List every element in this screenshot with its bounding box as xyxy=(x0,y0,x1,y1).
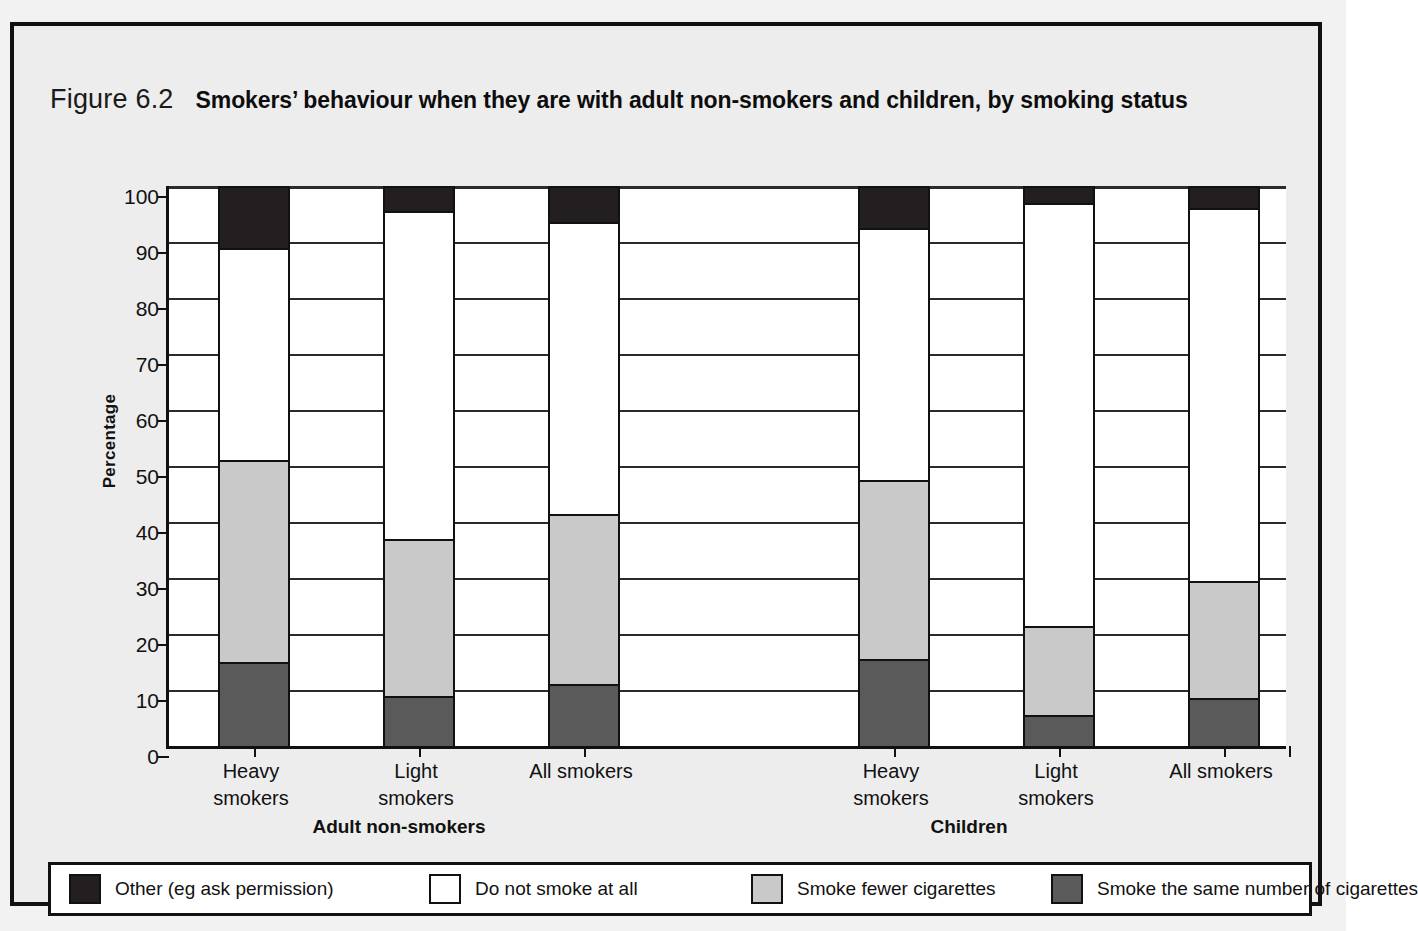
x-axis-tick-mark xyxy=(254,746,256,757)
legend-item[interactable]: Smoke fewer cigarettes xyxy=(751,865,996,913)
bar-segment-do-not-smoke[interactable] xyxy=(1023,203,1095,626)
x-axis-tick-mark xyxy=(1224,746,1226,757)
bar-segment-do-not-smoke[interactable] xyxy=(548,222,620,513)
x-axis-tick-mark xyxy=(1059,746,1061,757)
x-axis-category-labels: HeavysmokersLightsmokersAll smokersHeavy… xyxy=(166,758,1316,818)
y-axis-tick-mark xyxy=(157,588,169,590)
page-title: Smokers’ behaviour when they are with ad… xyxy=(196,87,1188,114)
legend-item[interactable]: Do not smoke at all xyxy=(429,865,638,913)
y-axis-tick-mark xyxy=(157,196,169,198)
bar-segment-smoke-same-number[interactable] xyxy=(383,696,455,746)
stacked-bar[interactable] xyxy=(858,186,930,746)
bar-segment-smoke-fewer[interactable] xyxy=(1023,626,1095,716)
x-axis-category-label: Lightsmokers xyxy=(976,758,1136,812)
figure-header: Figure 6.2 Smokers’ behaviour when they … xyxy=(50,84,1310,126)
y-axis-tick-label: 20 xyxy=(99,634,159,655)
y-axis-tick-mark xyxy=(157,420,169,422)
x-axis-tick-mark xyxy=(584,746,586,757)
x-axis-group-label: Children xyxy=(799,816,1139,838)
stacked-bar[interactable] xyxy=(548,186,620,746)
plot-frame xyxy=(166,186,1286,749)
legend-swatch xyxy=(429,874,461,904)
category-label-line2: smokers xyxy=(336,785,496,812)
y-axis-tick-label: 60 xyxy=(99,410,159,431)
x-axis-category-label: All smokers xyxy=(501,758,661,785)
bar-segment-smoke-same-number[interactable] xyxy=(548,684,620,746)
legend-swatch xyxy=(751,874,783,904)
legend-label: Do not smoke at all xyxy=(475,878,638,900)
bar-segment-smoke-same-number[interactable] xyxy=(1023,715,1095,746)
x-axis-group-label: Adult non-smokers xyxy=(229,816,569,838)
bar-segment-smoke-same-number[interactable] xyxy=(1188,698,1260,746)
legend-item[interactable]: Other (eg ask permission) xyxy=(69,865,334,913)
bar-segment-other[interactable] xyxy=(1023,186,1095,203)
category-label-line1: Heavy xyxy=(171,758,331,785)
legend-item[interactable]: Smoke the same number of cigarettes xyxy=(1051,865,1418,913)
plot-background xyxy=(169,186,1286,746)
bar-segment-smoke-same-number[interactable] xyxy=(218,662,290,746)
y-axis-tick-mark xyxy=(157,308,169,310)
legend-label: Smoke fewer cigarettes xyxy=(797,878,996,900)
y-axis-tick-mark xyxy=(157,532,169,534)
y-axis-tick-label: 70 xyxy=(99,354,159,375)
legend-swatch xyxy=(69,874,101,904)
legend-label: Other (eg ask permission) xyxy=(115,878,334,900)
x-axis-category-label: Lightsmokers xyxy=(336,758,496,812)
y-axis-tick-label: 90 xyxy=(99,242,159,263)
bar-segment-do-not-smoke[interactable] xyxy=(858,228,930,480)
bar-segment-smoke-fewer[interactable] xyxy=(1188,581,1260,699)
bar-segment-other[interactable] xyxy=(218,186,290,248)
bar-segment-smoke-fewer[interactable] xyxy=(858,480,930,659)
bar-series-layer xyxy=(169,186,1286,746)
chart-legend: Other (eg ask permission)Do not smoke at… xyxy=(48,862,1312,916)
figure-number: Figure 6.2 xyxy=(50,84,174,115)
y-axis-tick-label: 10 xyxy=(99,690,159,711)
category-label-line2: smokers xyxy=(811,785,971,812)
bar-segment-do-not-smoke[interactable] xyxy=(383,211,455,539)
stacked-bar[interactable] xyxy=(1023,186,1095,746)
bar-segment-smoke-fewer[interactable] xyxy=(218,460,290,662)
y-axis-tick-mark xyxy=(157,476,169,478)
x-axis-tick-mark xyxy=(1289,746,1291,757)
bar-segment-smoke-fewer[interactable] xyxy=(383,539,455,696)
x-axis-category-label: Heavysmokers xyxy=(811,758,971,812)
y-axis-tick-label: 50 xyxy=(99,466,159,487)
x-axis-category-label: All smokers xyxy=(1141,758,1301,785)
bar-segment-other[interactable] xyxy=(858,186,930,228)
legend-swatch xyxy=(1051,874,1083,904)
y-axis-tick-label: 40 xyxy=(99,522,159,543)
bar-segment-other[interactable] xyxy=(383,186,455,211)
y-axis-tick-mark xyxy=(157,252,169,254)
category-label-line1: Light xyxy=(976,758,1136,785)
bar-segment-other[interactable] xyxy=(1188,186,1260,208)
y-axis-tick-label: 30 xyxy=(99,578,159,599)
y-axis-tick-mark xyxy=(157,644,169,646)
category-label-line1: Heavy xyxy=(811,758,971,785)
y-axis-tick-label: 0 xyxy=(99,746,159,767)
stacked-bar[interactable] xyxy=(383,186,455,746)
category-label-line1: All smokers xyxy=(501,758,661,785)
stacked-bar[interactable] xyxy=(218,186,290,746)
y-axis-tick-labels: 1009080706050403020100 xyxy=(99,186,159,746)
stacked-bar[interactable] xyxy=(1188,186,1260,746)
bar-segment-smoke-same-number[interactable] xyxy=(858,659,930,746)
bar-segment-smoke-fewer[interactable] xyxy=(548,514,620,685)
y-axis-tick-mark xyxy=(157,364,169,366)
category-label-line2: smokers xyxy=(976,785,1136,812)
figure-frame: Figure 6.2 Smokers’ behaviour when they … xyxy=(10,22,1322,906)
x-axis-tick-mark xyxy=(419,746,421,757)
y-axis-tick-label: 80 xyxy=(99,298,159,319)
legend-label: Smoke the same number of cigarettes xyxy=(1097,878,1418,900)
x-axis-tick-mark xyxy=(894,746,896,757)
x-axis-group-labels: Adult non-smokersChildren xyxy=(44,816,1324,844)
bar-segment-other[interactable] xyxy=(548,186,620,222)
category-label-line1: All smokers xyxy=(1141,758,1301,785)
category-label-line1: Light xyxy=(336,758,496,785)
y-axis-tick-label: 100 xyxy=(99,186,159,207)
x-axis-category-label: Heavysmokers xyxy=(171,758,331,812)
bar-segment-do-not-smoke[interactable] xyxy=(218,248,290,461)
y-axis-tick-mark xyxy=(157,700,169,702)
category-label-line2: smokers xyxy=(171,785,331,812)
bar-segment-do-not-smoke[interactable] xyxy=(1188,208,1260,580)
